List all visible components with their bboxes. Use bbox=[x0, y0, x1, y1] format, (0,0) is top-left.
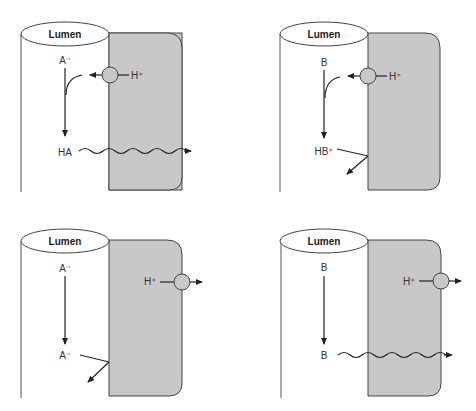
species-top-label: B bbox=[321, 57, 328, 68]
species-bottom-label: HB⁺ bbox=[315, 146, 334, 157]
lumen-label: Lumen bbox=[308, 29, 341, 40]
reflection-arrow bbox=[347, 156, 368, 174]
species-top-label: B bbox=[321, 262, 328, 273]
lumen-label: Lumen bbox=[49, 236, 82, 247]
reflection-arrow bbox=[88, 362, 109, 382]
proton-join-curve bbox=[66, 75, 82, 95]
transporter-circle bbox=[360, 68, 376, 84]
epithelial-cell bbox=[368, 240, 441, 396]
species-bottom-label: B bbox=[321, 350, 328, 361]
lumen-label: Lumen bbox=[49, 29, 82, 40]
species-top-label: A⁻ bbox=[59, 55, 71, 66]
species-bottom-label: A⁻ bbox=[59, 350, 71, 361]
epithelial-cell bbox=[109, 240, 182, 396]
panel-bottom-left: Lumen A⁻ H⁺ A⁻ bbox=[21, 229, 202, 398]
proton-label: H⁺ bbox=[131, 70, 143, 81]
proton-label: H⁺ bbox=[389, 71, 401, 82]
transporter-circle bbox=[174, 274, 190, 290]
species-bottom-label: HA bbox=[58, 147, 72, 158]
panel-bottom-right: Lumen B H⁺ B bbox=[280, 229, 461, 398]
species-top-label: A⁻ bbox=[59, 263, 71, 274]
transporter-circle bbox=[102, 67, 118, 83]
transporter-circle bbox=[433, 273, 449, 289]
proton-label: H⁺ bbox=[403, 276, 415, 287]
acid-base-trapping-diagram: Lumen A⁻ H⁺ HA Lumen B H⁺ HB⁺ Lumen A⁻ bbox=[0, 0, 476, 411]
proton-label: H⁺ bbox=[144, 276, 156, 287]
panel-top-right: Lumen B H⁺ HB⁺ bbox=[280, 22, 440, 192]
panel-top-left: Lumen A⁻ H⁺ HA bbox=[21, 22, 191, 192]
epithelial-cell bbox=[368, 33, 440, 190]
lumen-label: Lumen bbox=[308, 236, 341, 247]
